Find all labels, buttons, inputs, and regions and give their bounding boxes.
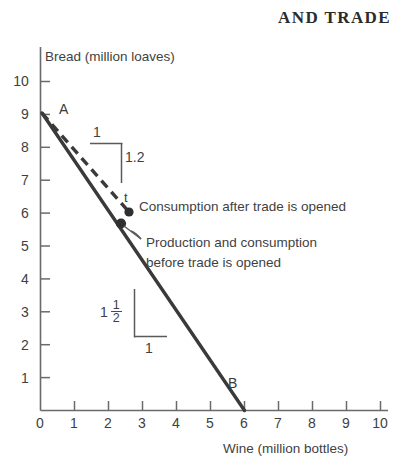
annotation-before-trade-line2: before trade is opened [146, 253, 281, 272]
y-axis-title: Bread (million loaves) [45, 49, 175, 64]
ppf-slope-whole: 1 [100, 304, 108, 320]
y-tick-label: 2 [14, 337, 36, 353]
annotation-before-trade-line1: Production and consumption [146, 233, 317, 252]
x-tick-label: 2 [97, 415, 119, 431]
x-tick-label: 9 [335, 415, 357, 431]
point-marker-t [124, 207, 133, 216]
point-label-b: B [228, 375, 237, 391]
annotation-after-trade: Consumption after trade is opened [139, 197, 346, 216]
y-tick-label: 7 [14, 172, 36, 188]
x-tick-label: 8 [301, 415, 323, 431]
y-tick-label: 1 [14, 370, 36, 386]
chart-figure: Bread (million loaves) Wine (million bot… [0, 0, 403, 468]
x-tick-label: 10 [369, 415, 391, 431]
y-tick-label: 4 [14, 271, 36, 287]
annotation-ppf-slope-triangle [135, 289, 168, 338]
y-axis-ticks [41, 82, 51, 378]
ppf-slope-fraction: 1 2 [111, 299, 122, 324]
y-tick-label: 6 [14, 205, 36, 221]
annotation-ppf-slope-rise: 1 1 2 [100, 299, 122, 324]
y-tick-label: 5 [14, 238, 36, 254]
point-label-a: A [59, 101, 68, 117]
ppf-slope-numerator: 1 [111, 299, 122, 311]
annotation-trade-slope-run: 1 [93, 124, 101, 140]
y-tick-label: 9 [14, 106, 36, 122]
x-tick-label: 5 [199, 415, 221, 431]
ppf-slope-denominator: 2 [111, 311, 122, 324]
chart-axes [41, 47, 389, 411]
y-tick-label: 8 [14, 139, 36, 155]
x-tick-label: 3 [131, 415, 153, 431]
y-tick-label: 3 [14, 304, 36, 320]
x-tick-label: 0 [29, 415, 51, 431]
x-tick-label: 1 [63, 415, 85, 431]
x-tick-label: 6 [233, 415, 255, 431]
annotation-ppf-slope-run: 1 [145, 340, 153, 356]
x-axis-ticks [75, 401, 381, 411]
x-tick-label: 7 [267, 415, 289, 431]
series-trade-line [42, 113, 129, 212]
point-label-t: t [124, 190, 128, 205]
annotation-trade-slope-triangle [90, 144, 123, 184]
x-tick-label: 4 [165, 415, 187, 431]
y-tick-label: 10 [10, 73, 32, 89]
x-axis-title: Wine (million bottles) [223, 441, 348, 456]
annotation-trade-slope-rise: 1.2 [125, 149, 144, 165]
